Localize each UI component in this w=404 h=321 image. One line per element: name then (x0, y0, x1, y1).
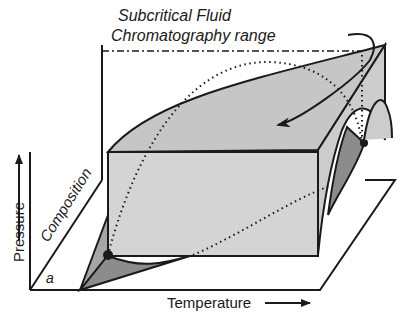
front-face-box (108, 152, 318, 256)
pressure-axis-label: Pressure (10, 202, 27, 262)
point-a-label: a (46, 270, 54, 286)
critical-point-left (103, 250, 113, 260)
title-line-2: Chromatography range (111, 27, 276, 44)
phase-diagram: Subcritical Fluid Chromatography range P… (0, 0, 404, 321)
temperature-axis-label: Temperature (167, 294, 251, 311)
title-line-1: Subcritical Fluid (118, 7, 232, 24)
